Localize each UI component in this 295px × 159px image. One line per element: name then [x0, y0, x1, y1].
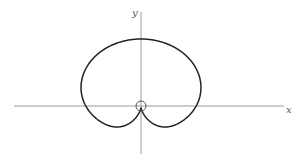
diagram-canvas: x y — [0, 0, 295, 159]
x-axis-label: x — [286, 104, 292, 115]
y-axis-label: y — [131, 7, 138, 18]
